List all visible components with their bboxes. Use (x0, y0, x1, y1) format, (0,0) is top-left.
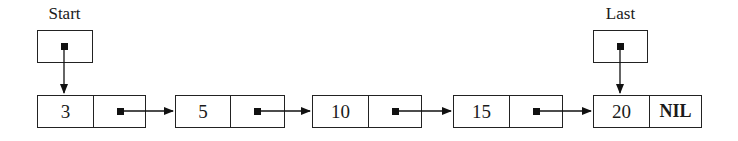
arrows-layer (0, 0, 738, 141)
